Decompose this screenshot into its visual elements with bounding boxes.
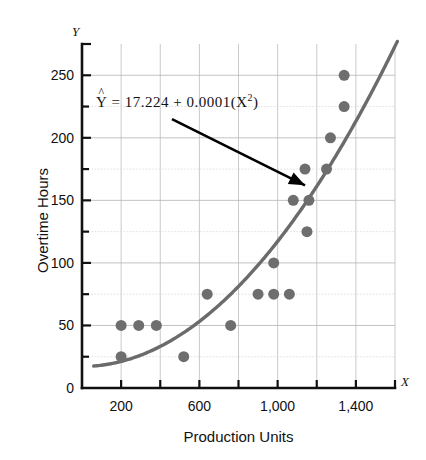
data-point xyxy=(284,289,295,300)
data-point xyxy=(116,320,127,331)
data-point xyxy=(202,289,213,300)
scatter-plot-figure: Y = 17.224 + 0.0001(X2) Y X Overtime Hou… xyxy=(0,0,426,460)
data-point xyxy=(133,320,144,331)
data-point xyxy=(300,164,311,175)
data-point xyxy=(151,320,162,331)
regression-equation-annotation: Y = 17.224 + 0.0001(X2) xyxy=(96,92,259,111)
fit-curve xyxy=(94,41,398,366)
data-point xyxy=(268,257,279,268)
data-point xyxy=(339,101,350,112)
x-tick-label: 600 xyxy=(188,398,211,414)
regression-curve xyxy=(94,41,398,366)
equation-body: = 17.224 + 0.0001(X xyxy=(107,94,247,110)
y-tick-label: 250 xyxy=(51,67,74,83)
data-point xyxy=(339,70,350,81)
x-tick-label: 1,000 xyxy=(260,398,295,414)
data-point xyxy=(253,289,264,300)
y-hat-symbol: Y xyxy=(96,94,107,111)
y-tick-label: 150 xyxy=(51,192,74,208)
y-tick-label: 100 xyxy=(51,255,74,271)
x-axis-symbol-label: X xyxy=(401,374,409,390)
data-point xyxy=(225,320,236,331)
data-point xyxy=(321,164,332,175)
x-tick-label: 1,400 xyxy=(338,398,373,414)
y-tick-label: 200 xyxy=(51,130,74,146)
y-tick-label: 50 xyxy=(58,317,74,333)
data-point xyxy=(116,351,127,362)
data-point xyxy=(301,226,312,237)
y-tick-label: 0 xyxy=(66,380,74,396)
y-axis-title: Overtime Hours xyxy=(34,141,51,301)
data-point xyxy=(325,132,336,143)
x-tick-label: 200 xyxy=(109,398,132,414)
data-point xyxy=(303,195,314,206)
data-points xyxy=(116,70,350,362)
y-axis-symbol-label: Y xyxy=(72,24,79,40)
x-axis-title: Production Units xyxy=(82,428,395,445)
data-point xyxy=(178,351,189,362)
equation-tail: ) xyxy=(253,94,259,110)
data-point xyxy=(288,195,299,206)
arrow-head xyxy=(288,172,305,185)
data-point xyxy=(268,289,279,300)
